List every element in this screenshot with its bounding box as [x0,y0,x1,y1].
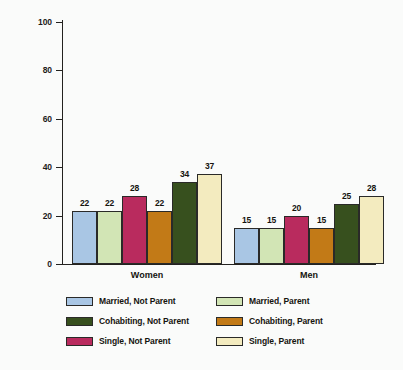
legend-label: Single, Not Parent [99,336,170,346]
legend-item: Cohabiting, Not Parent [66,316,216,326]
legend-label: Married, Parent [249,296,309,306]
chart-legend: Married, Not ParentMarried, ParentCohabi… [66,291,366,351]
bar-value-label: 34 [180,169,189,179]
bar [197,174,222,264]
y-axis-tick-label: 0 [47,259,52,269]
bar [122,196,147,264]
bar-value-label: 20 [292,203,301,213]
y-axis-tick-label: 60 [43,114,52,124]
bar-value-label: 15 [317,215,326,225]
legend-swatch [216,317,243,326]
bar-value-label: 25 [342,191,351,201]
y-axis-tick-label: 40 [43,162,52,172]
bar [334,204,359,265]
y-axis-tick-mark [56,264,62,265]
legend-label: Single, Parent [249,336,304,346]
legend-item: Single, Not Parent [66,336,216,346]
bar-value-label: 22 [80,198,89,208]
legend-label: Married, Not Parent [99,296,176,306]
legend-label: Cohabiting, Not Parent [99,316,189,326]
bar-value-label: 15 [242,215,251,225]
bar-value-label: 28 [130,183,139,193]
bar [284,216,309,264]
y-axis-tick-label: 80 [43,65,52,75]
bar-value-label: 28 [367,183,376,193]
bar [97,211,122,264]
bar-value-label: 15 [267,215,276,225]
legend-item: Married, Not Parent [66,296,216,306]
bar-value-label: 37 [205,161,214,171]
bar [259,228,284,264]
x-axis-group-label: Men [300,270,318,280]
bar-chart: Percentage 020406080100 2222282234371515… [0,0,403,370]
legend-label: Cohabiting, Parent [249,316,323,326]
x-axis-group-label: Women [131,270,163,280]
legend-swatch [66,297,93,306]
legend-swatch [216,297,243,306]
y-axis-tick-label: 100 [38,17,52,27]
legend-item: Married, Parent [216,296,366,306]
bar [309,228,334,264]
bar-value-label: 22 [105,198,114,208]
y-axis-tick-label: 20 [43,211,52,221]
bar [147,211,172,264]
bar [72,211,97,264]
bar [172,182,197,264]
plot-area: 222228223437151520152528 [62,22,375,264]
x-axis-line [62,264,376,265]
bar [359,196,384,264]
legend-swatch [216,337,243,346]
legend-item: Single, Parent [216,336,366,346]
bar [234,228,259,264]
legend-swatch [66,317,93,326]
bar-value-label: 22 [155,198,164,208]
legend-swatch [66,337,93,346]
legend-item: Cohabiting, Parent [216,316,366,326]
